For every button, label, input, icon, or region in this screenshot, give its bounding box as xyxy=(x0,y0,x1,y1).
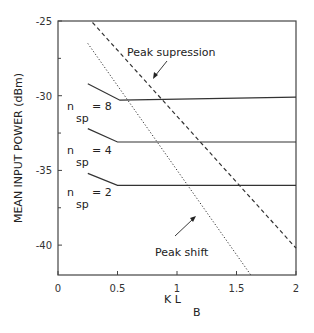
series-group xyxy=(88,23,296,276)
annotation-peak-supression: Peak supression xyxy=(127,46,216,59)
arrow-peak-supression xyxy=(153,61,167,79)
legend-label-nsp2: n sp = 2 xyxy=(67,186,112,211)
y-axis-label: MEAN INPUT POWER (dBm) xyxy=(12,73,25,223)
x-tick-label: 2 xyxy=(293,283,299,294)
legend-label-nsp8: n sp = 8 xyxy=(67,100,112,125)
svg-text:sp: sp xyxy=(76,198,89,211)
series-line-n-sp-8 xyxy=(88,84,296,100)
svg-text:= 4: = 4 xyxy=(92,144,112,157)
y-tick-label: -40 xyxy=(36,240,52,251)
x-tick-label: 0 xyxy=(55,283,61,294)
arrow-peak-shift xyxy=(175,216,196,236)
svg-text:= 8: = 8 xyxy=(92,100,112,113)
series-line-peak-shift xyxy=(88,43,251,275)
chart: -25-30-35-40 00.511.52 MEAN INPUT POWER … xyxy=(0,0,314,333)
x-axis-label: K L xyxy=(164,293,182,306)
svg-text:n: n xyxy=(67,186,74,199)
svg-text:sp: sp xyxy=(76,156,89,169)
x-tick-label: 0.5 xyxy=(110,283,126,294)
y-tick-label: -30 xyxy=(36,91,52,102)
y-tick-label: -25 xyxy=(36,16,52,27)
series-line-n-sp-2 xyxy=(88,173,296,185)
svg-text:sp: sp xyxy=(76,112,89,125)
y-tick-label: -35 xyxy=(36,165,52,176)
svg-text:= 2: = 2 xyxy=(92,186,112,199)
legend-label-nsp4: n sp = 4 xyxy=(67,144,112,169)
annotation-peak-shift: Peak shift xyxy=(155,246,209,259)
svg-text:n: n xyxy=(67,100,74,113)
x-axis-label-subscript: B xyxy=(193,306,201,319)
svg-text:n: n xyxy=(67,144,74,157)
x-tick-label: 1.5 xyxy=(229,283,245,294)
series-line-n-sp-4 xyxy=(88,129,296,142)
